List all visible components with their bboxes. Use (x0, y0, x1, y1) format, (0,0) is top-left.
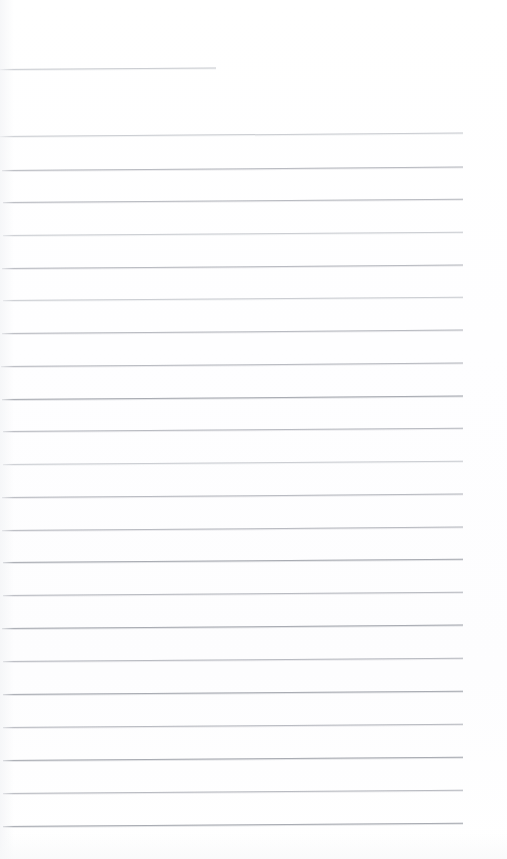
rule-line (3, 658, 463, 662)
rule-line (3, 724, 463, 728)
rule-line (2, 330, 463, 334)
rule-line (3, 428, 463, 432)
rule-line (3, 461, 463, 465)
rule-line (3, 232, 463, 236)
rule-line (3, 199, 463, 203)
rule-line (3, 297, 463, 301)
rule-line (3, 757, 463, 761)
rule-line (0, 67, 216, 70)
rule-line (2, 265, 463, 269)
rule-line (2, 167, 463, 171)
rule-line (1, 363, 463, 367)
rule-line (3, 790, 463, 794)
rule-line (2, 396, 463, 400)
scan-bottom-edge-shadow (0, 833, 507, 859)
rule-line (2, 625, 463, 629)
rule-line (0, 133, 463, 137)
rule-line (3, 691, 463, 695)
rule-line (2, 527, 463, 531)
rule-line (3, 559, 463, 563)
scanned-page (0, 0, 507, 859)
rule-line (2, 494, 463, 498)
rule-line (3, 823, 463, 827)
rule-line (3, 592, 463, 596)
